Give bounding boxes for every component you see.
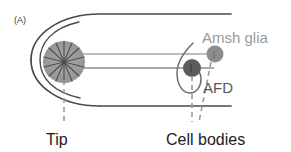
- panel-letter: (A): [14, 15, 26, 25]
- amsh-glia-label: Amsh glia: [202, 29, 269, 46]
- afd-cell-body: [183, 59, 201, 77]
- cell-bodies-group: [183, 46, 224, 78]
- afd-label: AFD: [203, 79, 233, 96]
- dendrite-tip: [43, 41, 85, 83]
- figure-panel-a: (A) Amsh glia AFD Tip Cell bodies: [0, 0, 291, 152]
- amsh-glia-cell-body: [207, 46, 224, 63]
- anatomy-diagram: (A) Amsh glia AFD Tip Cell bodies: [0, 0, 291, 152]
- cell-bodies-label: Cell bodies: [166, 131, 245, 148]
- tip-label: Tip: [46, 131, 68, 148]
